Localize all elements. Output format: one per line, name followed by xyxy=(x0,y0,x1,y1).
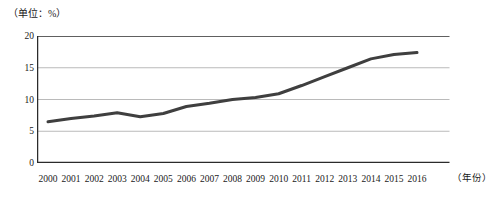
line-chart-figure: （单位：%） 05101520 200020012002200320042005… xyxy=(0,0,497,204)
x-axis-title: （年份） xyxy=(452,173,492,184)
x-axis-tick-label: 2016 xyxy=(397,174,437,184)
x-axis-tick-label-group: 2000200120022003200420052006200720082009… xyxy=(0,0,497,204)
